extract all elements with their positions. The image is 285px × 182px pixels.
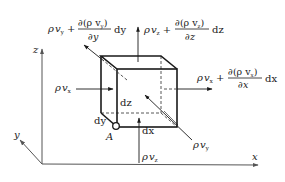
dy-label: dy — [94, 115, 106, 126]
cube-hidden-edges — [101, 56, 177, 127]
svg-text:∂z: ∂z — [185, 31, 196, 42]
z-axis-label: z — [32, 44, 39, 55]
svg-text:∂(ρ vx): ∂(ρ vx) — [228, 66, 257, 78]
inflow-x-label: ρvx — [54, 82, 72, 94]
inflow-z-label: ρvz — [141, 151, 158, 163]
coordinate-axes: z y x — [13, 44, 258, 165]
y-axis — [20, 140, 42, 164]
control-volume-cube — [101, 56, 177, 127]
svg-text:dz: dz — [212, 24, 224, 35]
corner-label-a: A — [105, 131, 113, 142]
svg-text:∂y: ∂y — [88, 31, 99, 42]
control-volume-diagram: z y x A dz dy dx ρvx ρvx+ ∂(ρ vx) — [0, 0, 285, 182]
y-axis-label: y — [13, 129, 20, 140]
svg-text:ρvy+: ρvy+ — [47, 23, 75, 36]
dx-label: dx — [142, 125, 154, 136]
outflow-y-arrow — [84, 45, 104, 61]
svg-text:ρvx+: ρvx+ — [196, 72, 224, 84]
outflow-y-label: ρvy+ ∂(ρ vy) ∂y dy — [47, 17, 126, 42]
dz-label: dz — [120, 97, 132, 108]
svg-text:∂x: ∂x — [238, 79, 249, 90]
outflow-x-label: ρvx+ ∂(ρ vx) ∂x dx — [196, 66, 277, 90]
corner-point-a — [113, 123, 120, 130]
outflow-z-label: ρvz+ ∂(ρ vz) ∂z dz — [143, 17, 224, 42]
svg-text:dy: dy — [114, 24, 126, 35]
svg-text:∂(ρ vz): ∂(ρ vz) — [175, 17, 204, 29]
svg-text:dx: dx — [265, 73, 277, 84]
svg-text:∂(ρ vy): ∂(ρ vy) — [78, 17, 107, 30]
x-axis-label: x — [252, 151, 258, 162]
inflow-y-label: ρvy — [192, 139, 210, 152]
x-axis — [42, 164, 258, 165]
svg-text:ρvz+: ρvz+ — [143, 24, 171, 36]
